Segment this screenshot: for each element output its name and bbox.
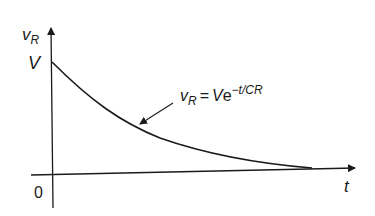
origin-label: 0 [34,184,43,201]
decay-curve [52,62,312,168]
equation-pointer-arrow [140,103,173,124]
y-axis [51,28,53,208]
decay-graph: vR V 0 t vR=Ve−t/CR [0,0,375,216]
y-intercept-label: V [28,53,42,73]
equation-label: vR=Ve−t/CR [180,83,263,108]
x-axis-label: t [344,177,350,196]
x-axis [31,168,355,175]
y-axis-label: vR [22,25,40,47]
